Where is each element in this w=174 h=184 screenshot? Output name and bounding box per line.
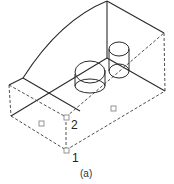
hidden-left-bottom <box>11 116 66 150</box>
center-left-edge <box>11 58 107 116</box>
large-cylinder-top <box>75 61 105 83</box>
small-cylinder-top <box>109 42 129 56</box>
marker-square-point-2 <box>64 115 69 120</box>
point-label-2: 2 <box>71 119 78 131</box>
ridge-edge <box>9 78 23 85</box>
hidden-front-top <box>66 33 164 117</box>
hidden-front-bottom <box>66 91 165 150</box>
isometric-solid-drawing <box>0 0 174 184</box>
ridge-diagonal-edge <box>23 78 80 111</box>
marker-square-point-1 <box>64 148 69 153</box>
large-cylinder-bottom <box>75 79 105 93</box>
hidden-right-vertical <box>164 33 165 91</box>
hidden-left-vertical <box>9 85 11 116</box>
top-right-edge <box>107 1 164 33</box>
marker-square-right <box>111 106 116 111</box>
figure-caption: (a) <box>80 169 92 179</box>
curved-top-edge <box>23 1 107 78</box>
marker-square-left <box>39 121 44 126</box>
point-label-1: 1 <box>72 152 79 164</box>
